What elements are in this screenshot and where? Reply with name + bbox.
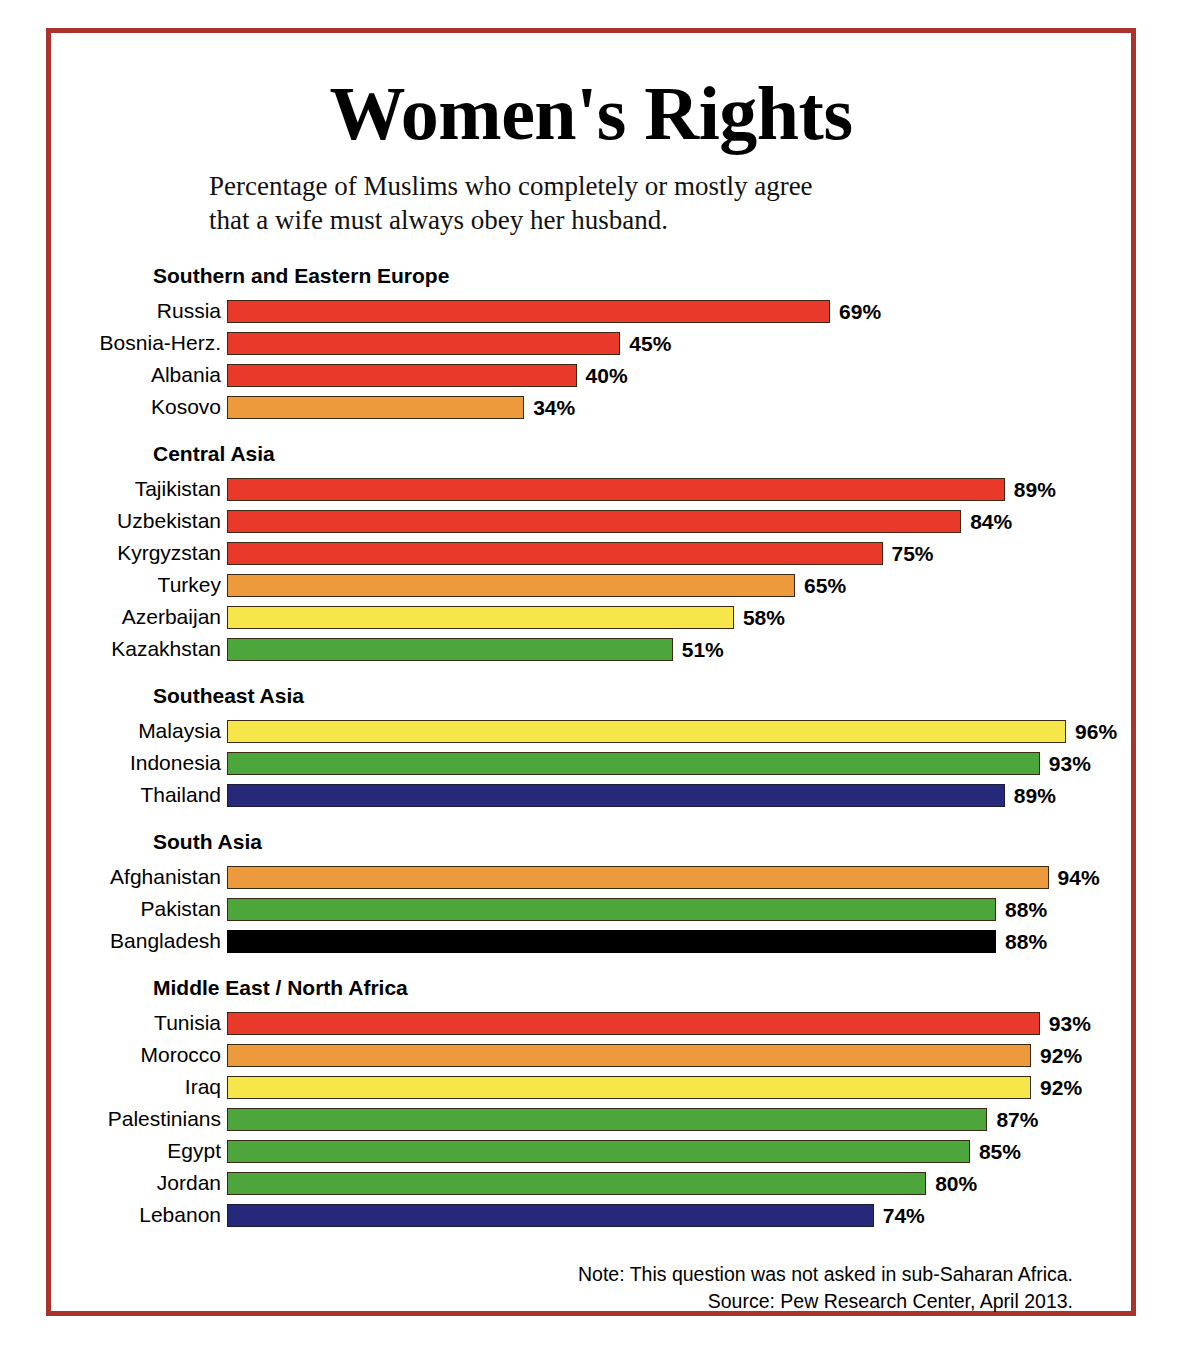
- bar-category-label: Palestinians: [51, 1107, 227, 1131]
- bar-track: 89%: [227, 473, 1131, 505]
- bar-value-label: 75%: [892, 542, 934, 565]
- bar-track: 93%: [227, 747, 1131, 779]
- bar-value-label: 89%: [1014, 478, 1056, 501]
- bar-row: Thailand89%: [51, 779, 1131, 811]
- bar: [227, 574, 795, 597]
- bar-category-label: Malaysia: [51, 719, 227, 743]
- bar-row: Iraq92%: [51, 1071, 1131, 1103]
- chart-footnotes: Note: This question was not asked in sub…: [51, 1261, 1131, 1315]
- bar-track: 45%: [227, 327, 1131, 359]
- bar-row: Kosovo34%: [51, 391, 1131, 423]
- bar-row: Malaysia96%: [51, 715, 1131, 747]
- bar-track: 94%: [227, 861, 1131, 893]
- bar-category-label: Iraq: [51, 1075, 227, 1099]
- bar-track: 74%: [227, 1199, 1131, 1231]
- bar-row: Azerbaijan58%: [51, 601, 1131, 633]
- bar-value-label: 45%: [629, 332, 671, 355]
- bar-row: Tunisia93%: [51, 1007, 1131, 1039]
- bar-track: 80%: [227, 1167, 1131, 1199]
- bar: [227, 866, 1049, 889]
- group-heading: Middle East / North Africa: [51, 975, 1131, 1001]
- bar-value-label: 40%: [586, 364, 628, 387]
- bar: [227, 332, 620, 355]
- bar-value-label: 92%: [1040, 1044, 1082, 1067]
- bar-track: 84%: [227, 505, 1131, 537]
- bar-row: Bangladesh88%: [51, 925, 1131, 957]
- bar-row: Palestinians87%: [51, 1103, 1131, 1135]
- bar-row: Russia69%: [51, 295, 1131, 327]
- bar-category-label: Uzbekistan: [51, 509, 227, 533]
- bar-category-label: Egypt: [51, 1139, 227, 1163]
- bar: [227, 1012, 1040, 1035]
- bar: [227, 300, 830, 323]
- bar-category-label: Kazakhstan: [51, 637, 227, 661]
- bar-category-label: Russia: [51, 299, 227, 323]
- bar-row: Pakistan88%: [51, 893, 1131, 925]
- bar-row: Turkey65%: [51, 569, 1131, 601]
- group-heading: South Asia: [51, 829, 1131, 855]
- bar-track: 92%: [227, 1071, 1131, 1103]
- bar-row: Egypt85%: [51, 1135, 1131, 1167]
- bar-value-label: 74%: [883, 1204, 925, 1227]
- bar-category-label: Azerbaijan: [51, 605, 227, 629]
- bar: [227, 1044, 1031, 1067]
- bar-value-label: 65%: [804, 574, 846, 597]
- bar: [227, 898, 996, 921]
- group-heading: Central Asia: [51, 441, 1131, 467]
- bar-track: 93%: [227, 1007, 1131, 1039]
- group-heading: Southeast Asia: [51, 683, 1131, 709]
- bar-category-label: Pakistan: [51, 897, 227, 921]
- group-heading: Southern and Eastern Europe: [51, 263, 1131, 289]
- bar-row: Uzbekistan84%: [51, 505, 1131, 537]
- bar: [227, 1108, 987, 1131]
- bar-track: 65%: [227, 569, 1131, 601]
- bar-row: Albania40%: [51, 359, 1131, 391]
- bar-category-label: Tunisia: [51, 1011, 227, 1035]
- bar-value-label: 93%: [1049, 1012, 1091, 1035]
- bar: [227, 784, 1005, 807]
- bar-value-label: 93%: [1049, 752, 1091, 775]
- bar-value-label: 84%: [970, 510, 1012, 533]
- bar-row: Lebanon74%: [51, 1199, 1131, 1231]
- footnote-note: Note: This question was not asked in sub…: [51, 1261, 1073, 1288]
- bar: [227, 930, 996, 953]
- bar: [227, 1204, 874, 1227]
- page-subtitle: Percentage of Muslims who completely or …: [51, 169, 1131, 237]
- bar-value-label: 69%: [839, 300, 881, 323]
- bar-row: Morocco92%: [51, 1039, 1131, 1071]
- bar-track: 89%: [227, 779, 1131, 811]
- bar-track: 34%: [227, 391, 1131, 423]
- bar-track: 87%: [227, 1103, 1131, 1135]
- bar: [227, 396, 524, 419]
- bar-value-label: 89%: [1014, 784, 1056, 807]
- bar-category-label: Lebanon: [51, 1203, 227, 1227]
- bar-category-label: Bangladesh: [51, 929, 227, 953]
- bar-value-label: 96%: [1075, 720, 1117, 743]
- bar-value-label: 80%: [935, 1172, 977, 1195]
- chart-group: Southeast AsiaMalaysia96%Indonesia93%Tha…: [51, 683, 1131, 811]
- footnote-source: Source: Pew Research Center, April 2013.: [51, 1288, 1073, 1315]
- bar-category-label: Bosnia-Herz.: [51, 331, 227, 355]
- bar-value-label: 87%: [996, 1108, 1038, 1131]
- bar: [227, 1076, 1031, 1099]
- bar-category-label: Afghanistan: [51, 865, 227, 889]
- bar-row: Indonesia93%: [51, 747, 1131, 779]
- chart-group: Central AsiaTajikistan89%Uzbekistan84%Ky…: [51, 441, 1131, 665]
- bar-track: 69%: [227, 295, 1131, 327]
- bar-value-label: 34%: [533, 396, 575, 419]
- bar-category-label: Kyrgyzstan: [51, 541, 227, 565]
- bar-row: Afghanistan94%: [51, 861, 1131, 893]
- bar-row: Kyrgyzstan75%: [51, 537, 1131, 569]
- bar-category-label: Tajikistan: [51, 477, 227, 501]
- bar: [227, 542, 883, 565]
- bar-value-label: 94%: [1058, 866, 1100, 889]
- bar: [227, 638, 673, 661]
- bar-value-label: 58%: [743, 606, 785, 629]
- chart-group: South AsiaAfghanistan94%Pakistan88%Bangl…: [51, 829, 1131, 957]
- bar-value-label: 85%: [979, 1140, 1021, 1163]
- bar-track: 51%: [227, 633, 1131, 665]
- bar-row: Bosnia-Herz.45%: [51, 327, 1131, 359]
- bar-chart: Southern and Eastern EuropeRussia69%Bosn…: [51, 263, 1131, 1231]
- bar-row: Kazakhstan51%: [51, 633, 1131, 665]
- bar-category-label: Jordan: [51, 1171, 227, 1195]
